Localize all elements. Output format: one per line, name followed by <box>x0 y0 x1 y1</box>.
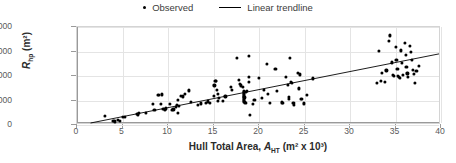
y-axis-symbol: R <box>21 62 32 69</box>
x-axis-title: Hull Total Area, AHT (m² x 10³) <box>76 141 440 154</box>
x-axis-subscript: HT <box>271 147 280 154</box>
y-tick-label: 100,000 <box>0 21 12 31</box>
legend-label-observed: Observed <box>152 2 193 13</box>
x-axis-title-main: Hull Total Area, <box>189 141 264 152</box>
chart-figure: Observed Linear trendline Rhp (m²) Hull … <box>0 0 456 163</box>
gridline-horizontal <box>77 125 439 126</box>
legend-dot-icon <box>143 6 146 9</box>
y-axis-subscript: hp <box>27 54 34 62</box>
plot-area <box>76 26 440 124</box>
x-tick-mark <box>440 124 441 128</box>
legend-item-trendline: Linear trendline <box>219 2 313 13</box>
y-tick-label: 0 <box>0 119 12 129</box>
y-tick-label: 50,000 <box>0 70 12 80</box>
trendline <box>77 27 439 123</box>
legend-line-icon <box>219 7 241 8</box>
x-tick-label: 40 <box>420 126 456 136</box>
gridline-vertical <box>441 27 442 123</box>
y-axis-title: Rhp (m²) <box>21 6 34 96</box>
y-axis-units: (m²) <box>21 32 32 54</box>
y-tick-label: 25,000 <box>0 95 12 105</box>
chart-legend: Observed Linear trendline <box>0 2 456 13</box>
legend-label-trendline: Linear trendline <box>247 2 313 13</box>
legend-item-observed: Observed <box>143 2 193 13</box>
x-axis-units: (m² x 10³) <box>280 141 327 152</box>
y-tick-label: 75,000 <box>0 46 12 56</box>
